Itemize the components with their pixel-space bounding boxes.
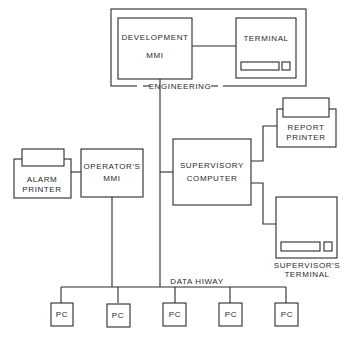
pc-node-2: PC (107, 304, 130, 327)
alarm-printer-paper-icon (22, 149, 64, 166)
development-mmi-box (118, 18, 192, 79)
supervisors-terminal-button-icon (324, 242, 332, 251)
terminal-screen-icon (241, 62, 279, 70)
pc-node-3: PC (163, 303, 186, 326)
pc-node-5: PC (275, 303, 298, 326)
operators-mmi-label-line1: OPERATOR'S (83, 162, 140, 171)
report-printer-label-line2: PRINTER (286, 133, 325, 142)
alarm-printer-label-line2: PRINTER (22, 185, 61, 194)
supervisory-computer-node: SUPERVISORY COMPUTER (173, 139, 251, 205)
supervisory-computer-label-line1: SUPERVISORY (180, 161, 244, 170)
supervisors-terminal-label-line2: TERMINAL (284, 270, 329, 279)
system-block-diagram: ENGINEERING DEVELOPMENT MMI TERMINAL ALA… (0, 0, 349, 337)
engineering-terminal-node: TERMINAL (236, 18, 296, 78)
pc3-label: PC (169, 310, 181, 319)
report-printer-paper-icon (283, 98, 329, 117)
operators-mmi-node: OPERATOR'S MMI (81, 149, 143, 197)
development-mmi-label-line2: MMI (146, 51, 163, 60)
pc4-label: PC (225, 310, 237, 319)
pc1-label: PC (56, 310, 68, 319)
pc-node-4: PC (219, 303, 242, 326)
terminal-button-icon (282, 62, 290, 70)
operators-mmi-box (81, 149, 143, 197)
data-hiway-bus: DATA HIWAY (61, 277, 286, 303)
supervisors-terminal-label-line1: SUPERVISOR'S (274, 261, 340, 270)
operators-mmi-label-line2: MMI (103, 174, 120, 183)
report-printer-node: REPORT PRINTER (277, 98, 336, 147)
supervisors-terminal-screen-icon (281, 242, 320, 251)
alarm-printer-node: ALARM PRINTER (14, 149, 71, 198)
supervisory-computer-label-line2: COMPUTER (187, 174, 238, 183)
development-mmi-label-line1: DEVELOPMENT (121, 33, 188, 42)
report-printer-label-line1: REPORT (288, 123, 325, 132)
data-hiway-label: DATA HIWAY (170, 277, 223, 286)
supervisory-report-printer-link (251, 126, 277, 161)
supervisors-terminal-node: SUPERVISOR'S TERMINAL (274, 197, 340, 279)
pc2-label: PC (112, 311, 124, 320)
pc-node-1: PC (51, 303, 73, 326)
terminal-label: TERMINAL (243, 34, 288, 43)
pc5-label: PC (281, 310, 293, 319)
supervisory-computer-box (173, 139, 251, 205)
development-mmi-node: DEVELOPMENT MMI (118, 18, 192, 79)
supervisory-supervisors-terminal-link (251, 183, 276, 224)
engineering-label: ENGINEERING (149, 82, 212, 91)
alarm-printer-label-line1: ALARM (27, 175, 58, 184)
